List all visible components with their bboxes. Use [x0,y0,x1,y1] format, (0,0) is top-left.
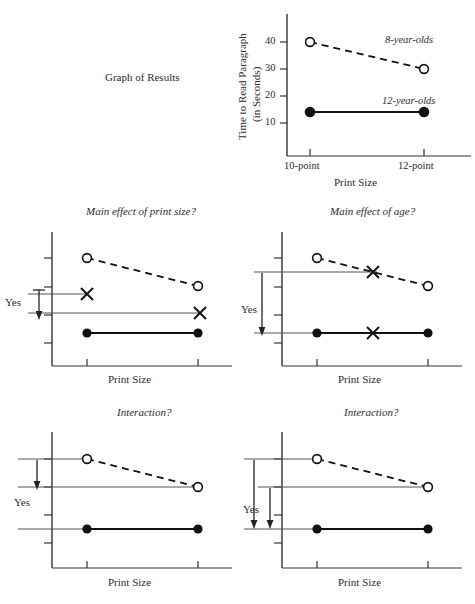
top-chart-ylabel-line1: Time to Read Paragraph [236,33,248,140]
top-chart-legend-8yo: 8-year-olds [385,34,433,45]
panel-interaction-right-series-8yo-line [317,459,428,487]
panel-print-size-point-8yo-1 [83,254,92,263]
panel-age-answer: Yes [241,303,257,315]
top-chart-xtick-label-12point: 12-point [398,160,434,171]
panel-print-size-title: Main effect of print size? [86,205,196,217]
panel-interaction-left-xlabel: Print Size [108,576,151,588]
panel-print-size-series-8yo-line [87,258,198,286]
panel-interaction-right-point-12yo-1 [312,524,321,533]
panel-age-point-8yo-2 [424,282,433,291]
panel-interaction-right-point-8yo-1 [313,455,322,464]
top-chart-point-12yo-10point [305,107,314,116]
panel-interaction-right-title: Interaction? [344,406,398,418]
panel-print-size-point-8yo-2 [194,282,203,291]
panel-interaction-right-point-8yo-2 [424,483,433,492]
panel-interaction-right-xlabel: Print Size [338,576,381,588]
panel-print-size-arrow-head [36,311,43,320]
panel-age-xlabel: Print Size [338,373,381,385]
panel-age-title: Main effect of age? [330,205,415,217]
top-chart-plot [275,8,475,173]
top-chart-xtick-label-10point: 10-point [284,160,320,171]
panel-age-point-8yo-1 [313,254,322,263]
panel-print-size-point-12yo-2 [193,328,202,337]
top-chart-legend-12yo: 12-year-olds [382,95,435,106]
top-chart-point-8yo-10point [306,38,315,47]
panel-print-size-xlabel: Print Size [108,373,151,385]
top-chart-ytick-label-40: 40 [265,35,276,46]
panel-interaction-right-answer: Yes [243,503,259,515]
panel-interaction-right-point-12yo-2 [423,524,432,533]
panel-print-size-point-12yo-1 [82,328,91,337]
panel-print-size-answer: Yes [5,296,21,308]
top-chart-ytick-label-20: 20 [265,89,276,100]
top-chart-point-12yo-12point [419,107,428,116]
panel-interaction-left-answer: Yes [14,496,30,508]
panel-interaction-left-series-8yo-line [87,459,198,487]
panel-age-arrow-head [259,327,266,336]
top-chart-point-8yo-12point [420,65,429,74]
panel-print-size-plot [10,228,240,378]
panel-interaction-left-title: Interaction? [117,406,171,418]
panel-interaction-left-plot [10,428,240,580]
panel-interaction-left-point-12yo-2 [193,524,202,533]
top-chart-xlabel: Print Size [334,176,377,188]
panel-interaction-left-arrow-head [34,481,41,490]
panel-interaction-left-point-8yo-2 [194,483,203,492]
panel-age-point-12yo-2 [423,328,432,337]
top-chart-ylabel-line2: (in Seconds) [250,67,262,122]
panel-interaction-right-plot [240,428,470,580]
panel-age-plot [240,228,470,378]
graph-of-results-caption: Graph of Results [105,71,180,83]
panel-interaction-left-point-12yo-1 [82,524,91,533]
panel-interaction-right-arrow-1-head [251,520,258,529]
panel-interaction-right-arrow-2-head [267,520,274,529]
top-chart-ytick-label-10: 10 [265,116,276,127]
top-chart-series-8yo-line [310,42,424,69]
panel-interaction-left-point-8yo-1 [83,455,92,464]
top-chart-ytick-label-30: 30 [265,62,276,73]
panel-age-point-12yo-1 [312,328,321,337]
